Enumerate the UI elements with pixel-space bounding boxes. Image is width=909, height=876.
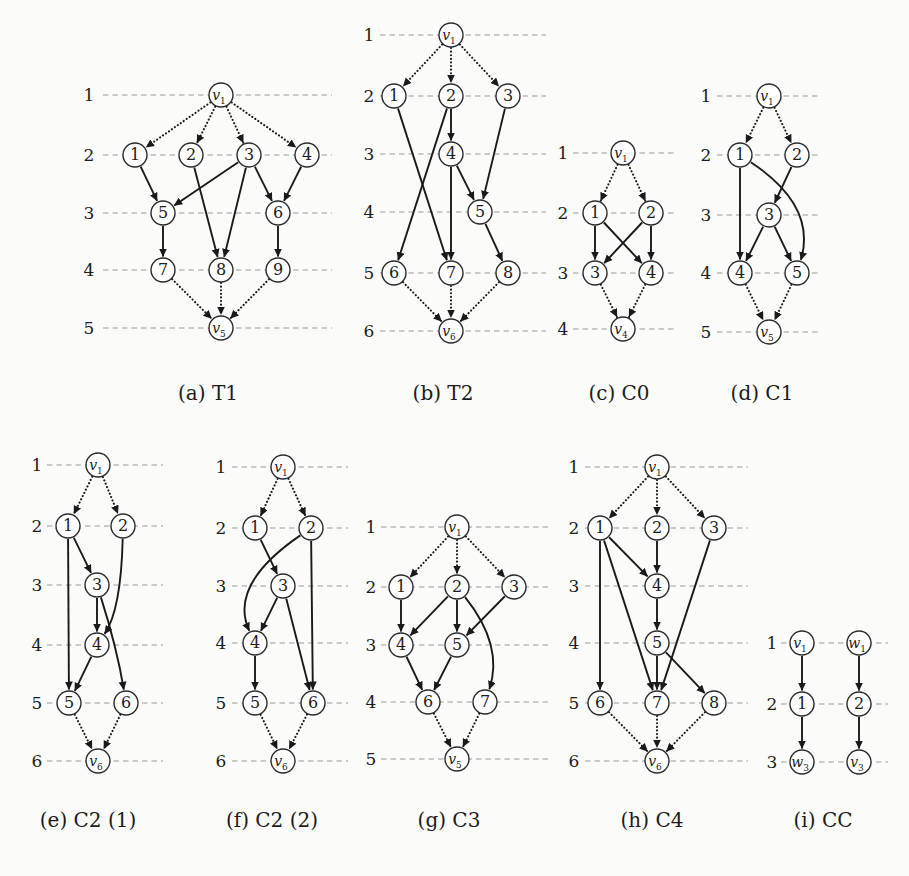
graph-edge-dotted (601, 165, 618, 201)
level-label: 5 (216, 693, 227, 713)
graph-edge-solid (141, 167, 157, 201)
graph-edge-solid (174, 162, 238, 205)
graph-edge-dotted (775, 285, 792, 320)
graph-node-label: 7 (446, 263, 456, 282)
graph-node: 3 (271, 574, 295, 598)
graph-node: 3 (237, 143, 261, 167)
graph-node-label: 4 (735, 263, 745, 282)
figure-e-C2-1-: 123456v1123456v6 (32, 453, 163, 773)
graph-node: w3 (790, 750, 814, 774)
graph-edge-dotted (775, 108, 792, 143)
graph-node-label: 8 (503, 263, 513, 282)
graph-edge-dotted (628, 165, 645, 201)
graph-edge-dotted (629, 285, 645, 317)
level-label: 1 (364, 25, 375, 45)
caption-b: (b) T2 (413, 381, 474, 405)
graph-node-label: 6 (308, 693, 318, 712)
graph-node-label: 3 (709, 518, 719, 537)
graph-node-label: 9 (273, 260, 283, 279)
graph-node: 2 (645, 516, 669, 540)
level-label: 5 (32, 693, 43, 713)
level-label: 1 (32, 455, 43, 475)
level-label: 5 (84, 318, 95, 338)
graph-node-label: 4 (302, 145, 312, 164)
graph-node: v3 (847, 750, 871, 774)
graph-edge-solid (68, 539, 69, 690)
level-label: 2 (701, 145, 712, 165)
graph-node: 4 (389, 633, 413, 657)
graph-node-label: 1 (590, 203, 600, 222)
level-label: 6 (32, 751, 43, 771)
graph-node: v1 (439, 23, 463, 47)
graph-node: 5 (57, 691, 81, 715)
graph-node: 1 (56, 514, 80, 538)
graph-node: v1 (645, 455, 669, 479)
level-label: 2 (216, 518, 227, 538)
level-label: 1 (558, 143, 569, 163)
graph-node: 6 (416, 690, 440, 714)
graph-edge-solid (609, 537, 647, 576)
graph-node: v5 (445, 747, 469, 771)
caption-c: (c) C0 (588, 381, 649, 405)
graph-node: 7 (645, 691, 669, 715)
graph-edge-solid (434, 657, 451, 690)
graph-node: v1 (209, 83, 233, 107)
graph-edge-solid (666, 652, 705, 693)
graph-edge-dotted (460, 44, 499, 86)
graph-node-label: 2 (446, 86, 456, 105)
graph-edge-solid (604, 540, 653, 690)
graph-node-label: 5 (64, 693, 74, 712)
graph-node: 4 (645, 574, 669, 598)
graph-node: 6 (588, 691, 612, 715)
graph-edge-dotted (172, 279, 211, 318)
graph-node-label: 1 (735, 145, 745, 164)
graph-node-label: 1 (797, 694, 807, 713)
level-label: 3 (32, 575, 43, 595)
graph-node-label: 5 (475, 202, 485, 221)
graph-edge-dotted (403, 282, 441, 321)
graph-node-label: 2 (452, 577, 462, 596)
graph-edge-dotted (226, 107, 243, 143)
graph-node: v6 (86, 749, 110, 773)
graph-node: 3 (502, 575, 526, 599)
graph-node: 5 (243, 691, 267, 715)
graph-node: 4 (295, 143, 319, 167)
graph-edge-dotted (103, 477, 118, 513)
caption-g: (g) C3 (418, 808, 481, 832)
graph-node: 1 (123, 143, 147, 167)
level-label: 3 (84, 203, 95, 223)
graph-node: v6 (645, 749, 669, 773)
graph-node: 2 (847, 692, 871, 716)
graph-node: 2 (439, 84, 463, 108)
graph-node-label: 8 (216, 260, 226, 279)
graph-edge-solid (194, 168, 217, 257)
graph-node-label: 4 (92, 635, 102, 654)
level-label: 2 (364, 86, 375, 106)
graph-node-label: 2 (652, 518, 662, 537)
graph-edge-dotted (746, 285, 763, 320)
graph-edge-dotted (230, 279, 268, 318)
graph-node: 2 (299, 516, 323, 540)
graph-node-label: 3 (244, 145, 254, 164)
caption-e: (e) C2 (1) (40, 808, 137, 832)
graph-edge-solid (224, 168, 246, 257)
level-label: 4 (32, 635, 43, 655)
level-label: 2 (32, 516, 43, 536)
level-label: 4 (701, 263, 712, 283)
graph-node: 5 (151, 201, 175, 225)
graph-edge-dotted (466, 536, 505, 577)
graph-edge-solid (485, 224, 502, 261)
level-label: 5 (364, 263, 375, 283)
graph-node-label: 8 (709, 693, 719, 712)
graph-edge-dotted (746, 108, 763, 143)
graph-node-label: 3 (509, 577, 519, 596)
graph-node-label: 5 (792, 263, 802, 282)
graph-node: 6 (382, 261, 406, 285)
graph-edge-dotted (410, 537, 448, 578)
graph-edge-solid (410, 596, 448, 635)
level-label: 4 (84, 260, 95, 280)
graph-edge-dotted (609, 476, 648, 518)
graph-node-label: 3 (764, 205, 774, 224)
level-label: 5 (366, 749, 377, 769)
graph-node-label: 5 (452, 635, 462, 654)
